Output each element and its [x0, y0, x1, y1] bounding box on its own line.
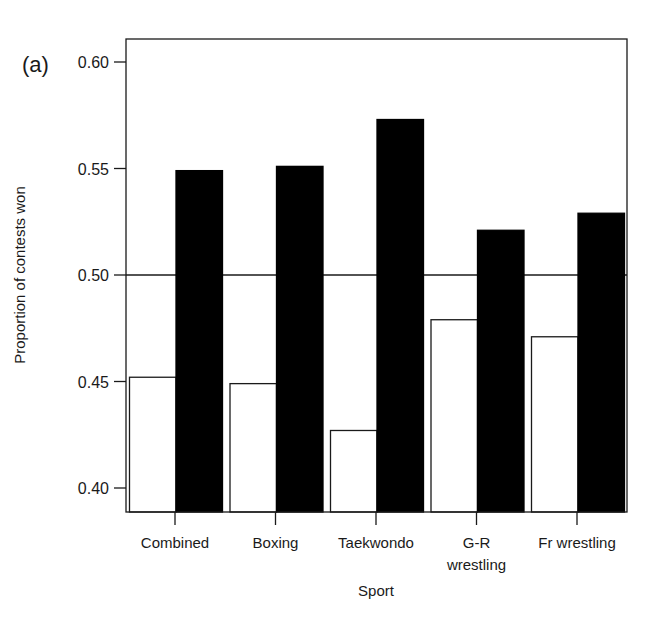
- plot-area: [126, 39, 627, 512]
- white-bar: [431, 320, 478, 512]
- black-bar: [478, 230, 525, 512]
- white-bar: [130, 377, 177, 512]
- y-tick-label: 0.45: [78, 374, 109, 391]
- y-tick-label: 0.40: [78, 480, 109, 497]
- black-bar: [176, 171, 223, 512]
- y-axis-label: Proportion of contests won: [11, 186, 28, 364]
- x-axis: CombinedBoxingTaekwondoG-RwrestlingFr wr…: [141, 512, 616, 573]
- x-tick-label: Fr wrestling: [538, 534, 616, 551]
- x-axis-label: Sport: [358, 582, 395, 599]
- panel-label: (a): [22, 52, 49, 77]
- y-tick-label: 0.50: [78, 267, 109, 284]
- y-tick-label: 0.60: [78, 54, 109, 71]
- white-bar: [532, 337, 579, 512]
- x-tick-label: Taekwondo: [338, 534, 414, 551]
- x-tick-label: Combined: [141, 534, 209, 551]
- black-bar: [277, 166, 324, 512]
- y-tick-label: 0.55: [78, 161, 109, 178]
- black-bar: [578, 213, 625, 512]
- white-bar: [230, 384, 277, 512]
- x-tick-label: G-Rwrestling: [446, 534, 506, 573]
- black-bar: [377, 120, 424, 512]
- y-axis: 0.400.450.500.550.60: [78, 54, 126, 497]
- x-tick-label: Boxing: [253, 534, 299, 551]
- bar-chart: (a) 0.400.450.500.550.60 CombinedBoxingT…: [0, 0, 657, 635]
- white-bar: [331, 430, 378, 512]
